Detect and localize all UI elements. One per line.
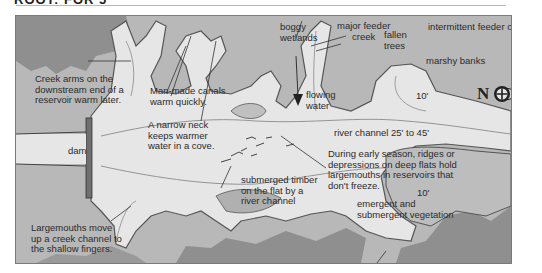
label-man-made-canals: Man-made canals warm quickly. [150,86,226,107]
label-river-channel: river channel 25' to 45' [334,128,429,139]
label-narrow-neck: A narrow neck keeps warmer water in a co… [148,120,215,152]
label-dam: dam [68,146,86,157]
label-largemouths-move: Largemouths move up a creek channel to t… [31,223,122,255]
label-marshy-banks: marshy banks [426,56,485,67]
label-intermittent-feeder-creek: intermittent feeder creek [428,22,512,33]
reservoir-map: Creek arms on the downstream end of a re… [15,15,512,264]
label-depth-10-lower: 10' [417,188,429,199]
label-flowing-water: flowing water [306,90,336,111]
label-vegetation: emergent and submergent vegetation [357,199,454,220]
north-letter: N [477,84,489,104]
label-boggy-wetlands: boggy wetlands [280,22,318,43]
header-rule [16,5,506,6]
compass-arrow-icon [491,83,512,105]
label-fallen-trees: fallen trees [384,30,407,51]
label-depth-10-upper: 10' [416,91,428,102]
label-submerged-timber: submerged timber on the flat by a river … [241,175,318,207]
label-major-feeder-creek: major feeder creek [337,21,390,42]
label-creek-arms: Creek arms on the downstream end of a re… [35,74,124,106]
north-compass: N [477,83,512,105]
label-early-season: During early season, ridges or depressio… [328,149,457,191]
